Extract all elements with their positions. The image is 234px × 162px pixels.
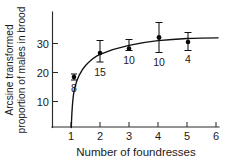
y-tick-label-20: 20: [37, 67, 49, 79]
plot-background: [0, 0, 234, 162]
data-point-group-1: 8: [71, 74, 77, 94]
x-tick-label-4: 4: [155, 130, 161, 142]
sample-size-label-1: 8: [71, 82, 77, 94]
y-tick-label-10: 10: [37, 96, 49, 108]
y-axis-title-line1: Arcsine transformed: [4, 24, 15, 115]
x-tick-label-5: 5: [184, 130, 190, 142]
x-axis-title: Number of foundresses: [76, 146, 196, 158]
sample-size-label-4: 10: [153, 56, 165, 68]
x-tick-label-2: 2: [97, 130, 103, 142]
data-marker-1: [72, 75, 77, 80]
data-marker-2: [98, 51, 103, 56]
data-marker-3: [127, 46, 132, 51]
y-tick-label-30: 30: [37, 38, 49, 50]
sample-size-label-3: 10: [123, 54, 135, 66]
chart-figure: 30 20 10 1 2 3 4 5 6 8: [0, 0, 234, 162]
data-marker-4: [157, 35, 162, 40]
y-axis-title-line2: proportion of males in brood: [16, 6, 27, 133]
x-tick-label-1: 1: [68, 130, 74, 142]
data-marker-5: [186, 40, 191, 45]
sample-size-label-5: 4: [185, 53, 191, 65]
x-tick-label-6: 6: [213, 130, 219, 142]
scatter-plot: 30 20 10 1 2 3 4 5 6 8: [0, 0, 234, 162]
sample-size-label-2: 15: [94, 66, 106, 78]
x-tick-label-3: 3: [126, 130, 132, 142]
